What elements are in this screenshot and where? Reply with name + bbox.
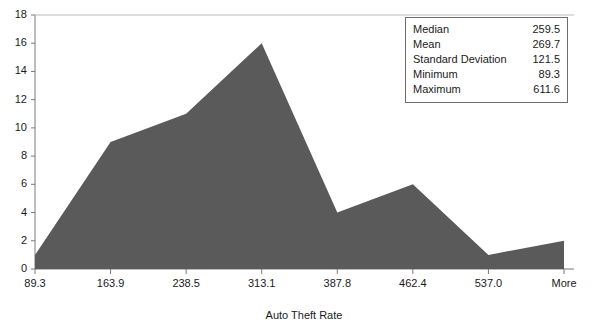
statistic-label: Minimum — [413, 67, 527, 82]
statistic-value: 269.7 — [527, 37, 560, 52]
statistics-row: Minimum89.3 — [413, 67, 560, 82]
x-tick-label: 89.3 — [0, 278, 70, 289]
statistic-label: Mean — [413, 37, 527, 52]
x-tick-label: 462.4 — [378, 278, 448, 289]
y-tick-label: 18 — [3, 9, 27, 20]
y-tick-label: 14 — [3, 65, 27, 76]
statistic-label: Maximum — [413, 82, 527, 97]
x-tick-label: 163.9 — [76, 278, 146, 289]
statistic-value: 89.3 — [527, 67, 560, 82]
x-tick-label: More — [529, 278, 599, 289]
y-tick-label: 6 — [3, 178, 27, 189]
statistics-row: Maximum611.6 — [413, 82, 560, 97]
y-tick-marks — [31, 15, 35, 269]
statistic-value: 121.5 — [527, 52, 560, 67]
x-tick-label: 238.5 — [151, 278, 221, 289]
statistic-label: Median — [413, 22, 527, 37]
statistic-value: 611.6 — [527, 82, 560, 97]
y-tick-label: 16 — [3, 37, 27, 48]
statistics-summary-box: Median259.5Mean269.7Standard Deviation12… — [405, 17, 568, 103]
x-axis-title: Auto Theft Rate — [0, 309, 608, 321]
y-tick-label: 4 — [3, 207, 27, 218]
x-tick-marks — [35, 269, 564, 274]
statistic-value: 259.5 — [527, 22, 560, 37]
statistics-row: Mean269.7 — [413, 37, 560, 52]
y-tick-label: 12 — [3, 94, 27, 105]
x-tick-label: 387.8 — [302, 278, 372, 289]
statistics-row: Standard Deviation121.5 — [413, 52, 560, 67]
auto-theft-rate-histogram: 181614121086420 89.3163.9238.5313.1387.8… — [0, 0, 608, 330]
y-tick-label: 2 — [3, 235, 27, 246]
y-tick-label: 10 — [3, 122, 27, 133]
statistics-row: Median259.5 — [413, 22, 560, 37]
y-tick-label: 0 — [3, 263, 27, 274]
y-tick-label: 8 — [3, 150, 27, 161]
statistic-label: Standard Deviation — [413, 52, 527, 67]
x-tick-label: 537.0 — [453, 278, 523, 289]
statistics-table: Median259.5Mean269.7Standard Deviation12… — [413, 22, 560, 97]
x-tick-label: 313.1 — [227, 278, 297, 289]
